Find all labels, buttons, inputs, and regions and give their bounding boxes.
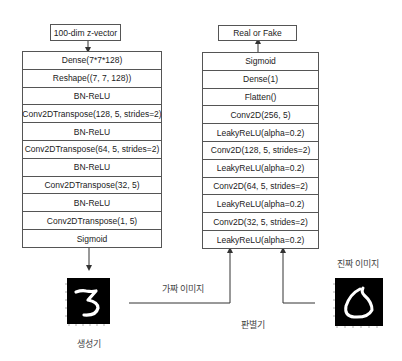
generator-layer: Conv2DTranspose(1, 5) [23, 212, 161, 230]
discriminator-layer: Conv2D(64, 5, strides=2) [203, 178, 318, 196]
real-or-fake-box: Real or Fake [218, 25, 297, 41]
arrow-real-to-discriminator [283, 250, 315, 303]
generator-caption: 생성기 [77, 337, 101, 350]
generator-layer: Conv2DTranspose(64, 5, strides=2) [23, 141, 161, 159]
discriminator-layer: LeakyReLU(alpha=0.2) [203, 231, 318, 249]
discriminator-caption: 판별기 [241, 318, 265, 331]
generated-digit-3-image [62, 276, 114, 330]
real-or-fake-label: Real or Fake [233, 28, 282, 38]
arrow-fake-to-discriminator [129, 250, 230, 303]
z-vector-label: 100-dim z-vector [54, 28, 117, 38]
discriminator-layer: Conv2D(256, 5) [203, 106, 318, 124]
real-digit-6-image [330, 276, 386, 330]
generator-stack: Dense(7*7*128) Reshape((7, 7, 128)) BN-R… [22, 51, 162, 248]
discriminator-layer: LeakyReLU(alpha=0.2) [203, 124, 318, 142]
generator-layer: BN-ReLU [23, 123, 161, 141]
generator-layer: Dense(7*7*128) [23, 52, 161, 70]
discriminator-layer: Conv2D(32, 5, strides=2) [203, 213, 318, 231]
generator-layer: BN-ReLU [23, 159, 161, 177]
real-image-label: 진짜 이미지 [337, 257, 380, 270]
generator-layer: Conv2DTranspose(32, 5) [23, 177, 161, 195]
discriminator-layer: Flatten() [203, 89, 318, 107]
discriminator-layer: Dense(1) [203, 71, 318, 89]
real-image [330, 276, 386, 330]
fake-image [62, 276, 114, 330]
fake-image-label: 가짜 이미지 [162, 282, 205, 295]
discriminator-layer: Sigmoid [203, 53, 318, 71]
generator-layer: Conv2DTranspose(128, 5, strides=2) [23, 105, 161, 123]
generator-layer: Reshape((7, 7, 128)) [23, 70, 161, 88]
discriminator-layer: LeakyReLU(alpha=0.2) [203, 195, 318, 213]
discriminator-layer: Conv2D(128, 5, strides=2) [203, 142, 318, 160]
generator-layer: Sigmoid [23, 230, 161, 248]
discriminator-layer: LeakyReLU(alpha=0.2) [203, 160, 318, 178]
generator-layer: BN-ReLU [23, 88, 161, 106]
discriminator-stack: Sigmoid Dense(1) Flatten() Conv2D(256, 5… [202, 52, 319, 249]
z-vector-box: 100-dim z-vector [50, 24, 121, 41]
generator-layer: BN-ReLU [23, 194, 161, 212]
